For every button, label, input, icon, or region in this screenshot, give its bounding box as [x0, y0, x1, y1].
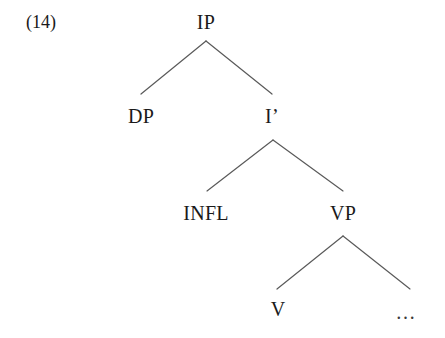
branch-group [141, 41, 410, 289]
branch-ip-dp [141, 41, 206, 94]
branch-ibar-infl [207, 140, 273, 191]
branch-ibar-vp [273, 140, 343, 191]
syntax-tree-figure: (14) IP DP I’ INFL VP V … [0, 0, 445, 338]
node-infl: INFL [183, 203, 229, 223]
node-dp: DP [128, 106, 154, 126]
node-i-bar: I’ [265, 106, 279, 126]
node-vp: VP [330, 203, 356, 223]
node-v: V [271, 299, 286, 319]
tree-branches [0, 0, 445, 338]
node-ip: IP [197, 12, 215, 32]
branch-ip-ibar [206, 41, 272, 94]
branch-vp-v [277, 236, 343, 289]
node-ellipsis: … [396, 302, 417, 322]
branch-vp-ellipsis [343, 236, 410, 289]
